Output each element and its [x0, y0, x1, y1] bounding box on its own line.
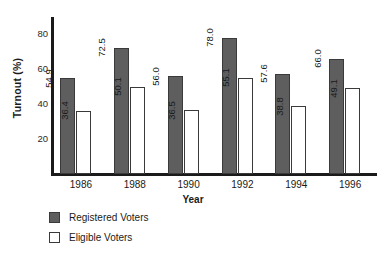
- bar-value-label: 49.1: [343, 79, 353, 98]
- legend-item[interactable]: Registered Voters: [49, 207, 149, 227]
- bar-value-label: 72.5: [112, 38, 122, 57]
- y-axis-tick-labels: 20406080: [18, 0, 48, 259]
- bar-value-label: 50.1: [128, 77, 138, 96]
- x-axis-tick-1994: 1994: [269, 179, 323, 190]
- bar-value-label: 66.0: [327, 50, 337, 69]
- bar[interactable]: 78.0: [222, 38, 237, 174]
- bar-group: 66.049.1: [323, 17, 377, 174]
- bar-group: 78.055.1: [216, 17, 270, 174]
- legend-item-label: Eligible Voters: [69, 232, 132, 243]
- plot-area: 54.936.472.550.156.036.578.055.157.638.8…: [54, 17, 377, 174]
- y-axis-tick-80: 80: [22, 28, 48, 39]
- x-axis-tick-1988: 1988: [108, 179, 162, 190]
- bar[interactable]: 55.1: [238, 78, 253, 174]
- chart-title: [30, 0, 370, 3]
- bar[interactable]: 49.1: [345, 88, 360, 174]
- bar-value-label: 78.0: [220, 29, 230, 48]
- bar-value-label: 54.9: [58, 69, 68, 88]
- bar-value-label: 55.1: [236, 69, 246, 88]
- bar[interactable]: 54.9: [60, 78, 75, 174]
- bar-value-label: 36.4: [74, 101, 84, 120]
- bar-group: 57.638.8: [269, 17, 323, 174]
- bar-value-label: 57.6: [273, 64, 283, 83]
- y-axis-tick-20: 20: [22, 133, 48, 144]
- legend-item[interactable]: Eligible Voters: [49, 227, 149, 247]
- bar[interactable]: 66.0: [329, 59, 344, 174]
- legend-swatch-icon: [49, 232, 60, 243]
- chart-legend: Registered VotersEligible Voters: [49, 207, 149, 247]
- x-axis-tick-1986: 1986: [54, 179, 108, 190]
- x-axis-tick-1990: 1990: [162, 179, 216, 190]
- bar[interactable]: 38.8: [291, 106, 306, 174]
- bar[interactable]: 56.0: [168, 76, 183, 174]
- bar[interactable]: 57.6: [275, 74, 290, 174]
- y-axis-tick-40: 40: [22, 98, 48, 109]
- bar-value-label: 36.5: [182, 101, 192, 120]
- x-axis-tick-1992: 1992: [215, 179, 269, 190]
- bar[interactable]: 36.4: [76, 111, 91, 174]
- legend-item-label: Registered Voters: [69, 212, 149, 223]
- bar[interactable]: 36.5: [184, 110, 199, 174]
- x-axis-label: Year: [0, 194, 386, 205]
- bar-value-label: 38.8: [289, 97, 299, 116]
- bar-group: 72.550.1: [108, 17, 162, 174]
- bar[interactable]: 50.1: [130, 87, 145, 174]
- bar-value-label: 56.0: [166, 67, 176, 86]
- bar[interactable]: 72.5: [114, 48, 129, 174]
- legend-swatch-icon: [49, 212, 60, 223]
- bar-chart: Turnout (%) 20406080 54.936.472.550.156.…: [0, 0, 386, 259]
- x-axis-tick-1996: 1996: [323, 179, 377, 190]
